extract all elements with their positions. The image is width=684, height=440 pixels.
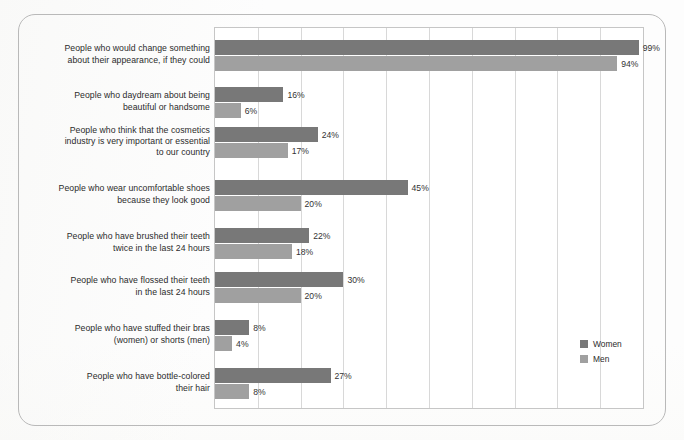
bar-value-label: 27% <box>331 371 352 381</box>
category-label-line: in the last 24 hours <box>22 287 210 298</box>
bar-group: 8%4% <box>215 320 643 351</box>
bar-group: 22%18% <box>215 228 643 259</box>
bar-women <box>215 127 318 142</box>
bar-women <box>215 272 343 287</box>
bar-value-label: 8% <box>249 387 265 397</box>
bar-row: 99% <box>215 40 643 55</box>
category-labels-column: People who would change somethingabout t… <box>22 27 210 409</box>
bar-women <box>215 228 309 243</box>
legend-item-men[interactable]: Men <box>580 352 650 365</box>
category-label-line: People who have brushed their teeth <box>22 231 210 242</box>
legend-swatch-icon <box>580 340 588 348</box>
category-label-line: their hair <box>22 383 210 394</box>
bar-group: 99%94% <box>215 40 643 71</box>
bar-group: 16%6% <box>215 87 643 118</box>
bar-group: 24%17% <box>215 127 643 158</box>
category-label: People who daydream about beingbeautiful… <box>22 90 210 112</box>
bar-row: 4% <box>215 336 643 351</box>
bar-value-label: 4% <box>232 339 248 349</box>
bar-men <box>215 336 232 351</box>
bar-women <box>215 87 283 102</box>
bar-men <box>215 56 617 71</box>
bar-row: 6% <box>215 103 643 118</box>
bar-men <box>215 384 249 399</box>
category-label-line: People who have flossed their teeth <box>22 275 210 286</box>
bar-row: 8% <box>215 384 643 399</box>
bar-women <box>215 368 331 383</box>
category-label: People who think that the cosmeticsindus… <box>22 125 210 159</box>
bar-value-label: 22% <box>309 231 330 241</box>
bar-value-label: 6% <box>241 106 257 116</box>
bar-row: 24% <box>215 127 643 142</box>
bar-row: 22% <box>215 228 643 243</box>
chart-legend: WomenMen <box>580 337 650 367</box>
bar-row: 17% <box>215 143 643 158</box>
bar-row: 20% <box>215 288 643 303</box>
bar-value-label: 24% <box>318 130 339 140</box>
bar-row: 8% <box>215 320 643 335</box>
category-label-line: because they look good <box>22 195 210 206</box>
bar-women <box>215 40 639 55</box>
bar-value-label: 18% <box>292 247 313 257</box>
bar-value-label: 30% <box>343 275 364 285</box>
bar-women <box>215 180 408 195</box>
category-label-line: People who think that the cosmetics <box>22 125 210 136</box>
bar-row: 16% <box>215 87 643 102</box>
category-label: People who have brushed their teethtwice… <box>22 231 210 253</box>
bar-value-label: 99% <box>639 43 660 53</box>
bar-value-label: 17% <box>288 146 309 156</box>
legend-swatch-icon <box>580 355 588 363</box>
bar-men <box>215 288 301 303</box>
category-label: People who wear uncomfortable shoesbecau… <box>22 183 210 205</box>
bar-men <box>215 244 292 259</box>
category-label-line: to our country <box>22 147 210 158</box>
bar-men <box>215 143 288 158</box>
bar-value-label: 8% <box>249 323 265 333</box>
bar-value-label: 45% <box>408 183 429 193</box>
bar-row: 94% <box>215 56 643 71</box>
bar-group: 27%8% <box>215 368 643 399</box>
category-label: People who have bottle-coloredtheir hair <box>22 371 210 393</box>
category-label-line: about their appearance, if they could <box>22 55 210 66</box>
legend-item-women[interactable]: Women <box>580 337 650 350</box>
bar-men <box>215 196 301 211</box>
bar-row: 18% <box>215 244 643 259</box>
category-label-line: People who have stuffed their bras <box>22 323 210 334</box>
bar-row: 30% <box>215 272 643 287</box>
bar-women <box>215 320 249 335</box>
category-label-line: People who daydream about being <box>22 90 210 101</box>
bar-row: 20% <box>215 196 643 211</box>
bar-row: 27% <box>215 368 643 383</box>
category-label-line: (women) or shorts (men) <box>22 335 210 346</box>
legend-label: Men <box>593 354 609 364</box>
bar-value-label: 20% <box>301 291 322 301</box>
bar-group: 45%20% <box>215 180 643 211</box>
category-label-line: People who would change something <box>22 43 210 54</box>
category-label-line: People who have bottle-colored <box>22 371 210 382</box>
bar-value-label: 20% <box>301 199 322 209</box>
legend-label: Women <box>593 339 622 349</box>
category-label: People who would change somethingabout t… <box>22 43 210 65</box>
bar-value-label: 94% <box>617 59 638 69</box>
bars-layer: 99%94%16%6%24%17%45%20%22%18%30%20%8%4%2… <box>215 28 643 408</box>
category-label-line: beautiful or handsome <box>22 102 210 113</box>
horizontal-bar-chart: People who would change somethingabout t… <box>0 0 684 440</box>
category-label-line: People who wear uncomfortable shoes <box>22 183 210 194</box>
category-label-line: twice in the last 24 hours <box>22 243 210 254</box>
bar-value-label: 16% <box>283 90 304 100</box>
category-label: People who have stuffed their bras(women… <box>22 323 210 345</box>
category-label: People who have flossed their teethin th… <box>22 275 210 297</box>
category-label-line: industry is very important or essential <box>22 136 210 147</box>
bar-row: 45% <box>215 180 643 195</box>
bar-group: 30%20% <box>215 272 643 303</box>
chart-page: People who would change somethingabout t… <box>0 0 684 440</box>
bar-men <box>215 103 241 118</box>
